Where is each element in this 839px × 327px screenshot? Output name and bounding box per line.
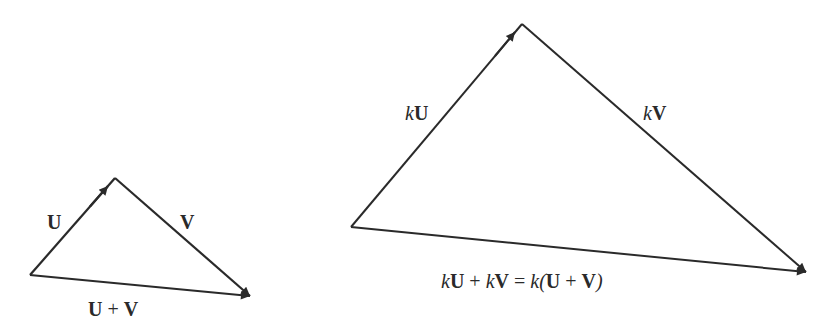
vector-u-arrow-icon <box>90 186 108 207</box>
sum-plus: + <box>107 298 118 320</box>
vector-u-plus-v-line <box>30 275 250 296</box>
large-triangle <box>351 24 806 272</box>
vector-addition-diagram <box>0 0 839 327</box>
label-u-plus-v: U + V <box>88 299 138 319</box>
sum-v: V <box>124 298 138 320</box>
label-v-text: V <box>180 211 194 233</box>
label-kv: kV <box>643 103 666 123</box>
eq-k3: k( <box>530 270 546 292</box>
eq-plus2: + <box>565 270 576 292</box>
vector-ku-plus-kv-line <box>351 227 806 272</box>
eq-u1: U <box>450 270 464 292</box>
eq-k2: k <box>486 270 495 292</box>
ku-k: k <box>405 102 414 124</box>
eq-v2: V <box>582 270 596 292</box>
kv-k: k <box>643 102 652 124</box>
eq-close: ) <box>596 270 603 292</box>
label-u: U <box>47 212 61 232</box>
ku-u: U <box>414 102 428 124</box>
label-distributive-equation: kU + kV = k(U + V) <box>441 271 603 291</box>
small-triangle <box>30 178 250 296</box>
eq-equals: = <box>514 270 525 292</box>
eq-plus1: + <box>469 270 480 292</box>
label-v: V <box>180 212 194 232</box>
eq-k1: k <box>441 270 450 292</box>
label-u-text: U <box>47 211 61 233</box>
vector-ku-arrow-icon <box>495 32 515 56</box>
sum-u: U <box>88 298 102 320</box>
eq-u2: U <box>546 270 560 292</box>
eq-v1: V <box>495 270 509 292</box>
vector-v-line <box>115 178 250 296</box>
label-ku: kU <box>405 103 428 123</box>
vector-kv-line <box>522 24 806 272</box>
kv-v: V <box>652 102 666 124</box>
